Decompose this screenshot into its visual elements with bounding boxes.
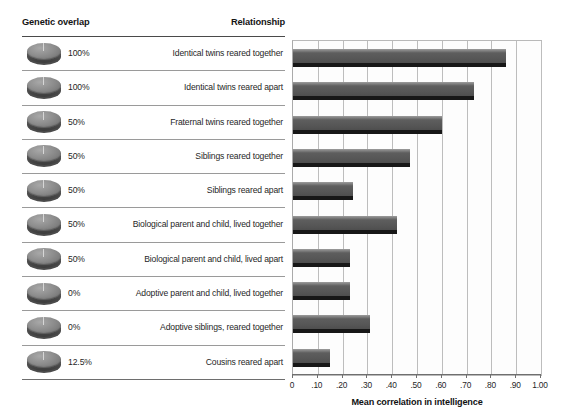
bar-shadow	[293, 230, 397, 234]
bar	[293, 182, 353, 196]
bar	[293, 282, 350, 296]
genetic-overlap-value: 50%	[68, 185, 85, 195]
genetic-overlap-value: 100%	[68, 82, 90, 92]
genetic-overlap-value: 0%	[68, 322, 80, 332]
relationship-label: Siblings reared apart	[207, 185, 283, 195]
x-axis-tick	[490, 374, 491, 378]
bar-shadow	[293, 196, 353, 200]
gridline	[541, 41, 542, 375]
relationship-label: Fraternal twins reared together	[170, 117, 283, 127]
x-axis-tick-label: 1.00	[532, 380, 548, 390]
table-header-row: Genetic overlap Relationship	[22, 16, 285, 37]
bar-shadow	[293, 163, 410, 167]
bar-row	[293, 274, 541, 307]
column-header-relationship: Relationship	[231, 17, 285, 27]
relationship-label: Identical twins reared together	[173, 48, 283, 58]
genetic-overlap-value: 50%	[68, 117, 85, 127]
x-axis-tick-label: .90	[510, 380, 521, 390]
x-axis-tick	[292, 374, 293, 378]
pie-token-icon	[26, 283, 62, 306]
table-row: 50% Biological parent and child, lived a…	[22, 243, 285, 277]
x-axis-tick	[366, 374, 367, 378]
bar	[293, 249, 350, 263]
x-axis-tick	[540, 374, 541, 378]
table-row: 0% Adoptive siblings, reared together	[22, 311, 285, 345]
bar	[293, 116, 442, 130]
relationship-table: Genetic overlap Relationship 100% Identi…	[22, 16, 285, 380]
bar-row	[293, 41, 541, 74]
relationship-label: Biological parent and child, lived apart	[144, 254, 283, 264]
bar	[293, 349, 330, 363]
bar	[293, 315, 370, 329]
bar-shadow	[293, 263, 350, 267]
x-axis-tick	[342, 374, 343, 378]
x-axis-tick-label: .40	[386, 380, 397, 390]
x-axis-tick	[466, 374, 467, 378]
bar-chart-plot-area	[292, 40, 542, 376]
table-row: 12.5% Cousins reared apart	[22, 346, 285, 380]
bar-row	[293, 141, 541, 174]
bar	[293, 216, 397, 230]
x-axis-tick-label: .60	[435, 380, 446, 390]
bar	[293, 149, 410, 163]
bar	[293, 82, 474, 96]
genetic-overlap-value: 100%	[68, 48, 90, 58]
genetic-overlap-value: 50%	[68, 254, 85, 264]
x-axis-tick	[515, 374, 516, 378]
table-row: 50% Siblings reared apart	[22, 174, 285, 208]
x-axis-tick-label: 0	[290, 380, 294, 390]
bar-row	[293, 241, 541, 274]
x-axis-tick	[317, 374, 318, 378]
table-row: 100% Identical twins reared together	[22, 37, 285, 71]
x-axis-tick	[441, 374, 442, 378]
x-axis-tick-label: .80	[485, 380, 496, 390]
bar-row	[293, 108, 541, 141]
x-axis-tick-label: .20	[336, 380, 347, 390]
pie-token-icon	[26, 317, 62, 340]
table-row: 50% Fraternal twins reared together	[22, 106, 285, 140]
x-axis-tick	[416, 374, 417, 378]
pie-token-icon	[26, 248, 62, 271]
bar-row	[293, 307, 541, 340]
bar-shadow	[293, 329, 370, 333]
x-axis-title: Mean correlation in intelligence	[292, 397, 542, 407]
pie-token-icon	[26, 77, 62, 100]
genetic-overlap-value: 12.5%	[68, 357, 92, 367]
genetic-overlap-value: 0%	[68, 288, 80, 298]
table-row: 50% Siblings reared together	[22, 140, 285, 174]
bar-shadow	[293, 296, 350, 300]
table-row: 100% Identical twins reared apart	[22, 71, 285, 105]
relationship-label: Identical twins reared apart	[184, 82, 283, 92]
pie-token-icon	[26, 145, 62, 168]
genetic-overlap-value: 50%	[68, 219, 85, 229]
bar-shadow	[293, 363, 330, 367]
pie-token-icon	[26, 43, 62, 66]
genetics-intelligence-figure: Genetic overlap Relationship 100% Identi…	[0, 0, 570, 420]
x-axis-tick-label: .50	[410, 380, 421, 390]
table-row: 0% Adoptive parent and child, lived toge…	[22, 277, 285, 311]
relationship-label: Adoptive parent and child, lived togethe…	[136, 288, 283, 298]
relationship-label: Biological parent and child, lived toget…	[133, 219, 283, 229]
x-axis-tick-label: .30	[361, 380, 372, 390]
genetic-overlap-value: 50%	[68, 151, 85, 161]
bar-row	[293, 74, 541, 107]
relationship-label: Adoptive siblings, reared together	[160, 322, 283, 332]
relationship-label: Cousins reared apart	[206, 357, 283, 367]
table-row: 50% Biological parent and child, lived t…	[22, 208, 285, 242]
bar-row	[293, 208, 541, 241]
x-axis-tick-label: .70	[460, 380, 471, 390]
bar-shadow	[293, 63, 506, 67]
relationship-label: Siblings reared together	[195, 151, 283, 161]
pie-token-icon	[26, 111, 62, 134]
x-axis-tick-label: .10	[311, 380, 322, 390]
pie-token-icon	[26, 351, 62, 374]
bar-shadow	[293, 96, 474, 100]
pie-token-icon	[26, 180, 62, 203]
column-header-genetic-overlap: Genetic overlap	[22, 17, 90, 27]
bar-row	[293, 174, 541, 207]
bar-row	[293, 341, 541, 374]
bar-shadow	[293, 130, 442, 134]
bar	[293, 49, 506, 63]
x-axis-tick	[391, 374, 392, 378]
pie-token-icon	[26, 214, 62, 237]
